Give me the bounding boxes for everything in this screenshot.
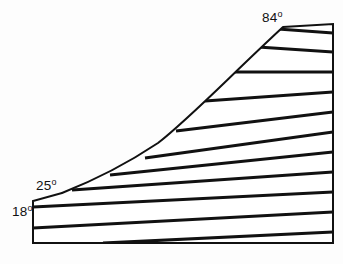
degree-symbol-icon: o	[27, 203, 32, 213]
degree-symbol-icon: o	[277, 9, 282, 19]
degree-symbol-icon: o	[51, 177, 56, 187]
diagram-root: 18o 25o 84o	[0, 0, 343, 264]
angle-label-84-value: 84	[262, 10, 278, 25]
angle-label-25-value: 25	[36, 178, 51, 193]
geometric-wedge-figure: 18o 25o 84o	[0, 0, 343, 264]
angle-label-18-value: 18	[12, 204, 27, 219]
